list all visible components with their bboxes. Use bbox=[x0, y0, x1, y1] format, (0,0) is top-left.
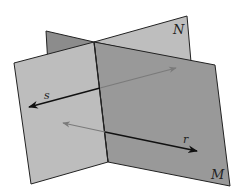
line-r-label: r bbox=[183, 133, 189, 146]
plane-n-label: N bbox=[172, 22, 185, 37]
plane-m-right-half bbox=[94, 42, 230, 186]
plane-left-front bbox=[14, 42, 108, 184]
line-s-label: s bbox=[44, 89, 50, 102]
plane-m-label: M bbox=[210, 167, 225, 182]
intersecting-planes-diagram: N M s r bbox=[0, 0, 240, 195]
